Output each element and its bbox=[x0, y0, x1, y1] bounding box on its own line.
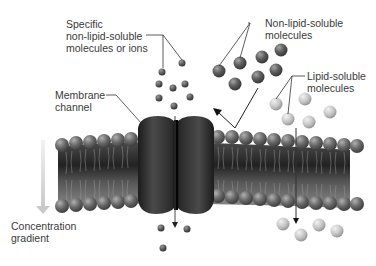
label-line: molecules bbox=[265, 29, 343, 41]
label-line: Lipid-soluble bbox=[307, 70, 366, 82]
concentration-gradient-arrow bbox=[36, 140, 50, 214]
label-concentration-gradient: Concentration gradient bbox=[11, 220, 76, 244]
label-line: Specific bbox=[66, 18, 148, 30]
label-line: Non-lipid-soluble bbox=[265, 17, 343, 29]
blocked-arrow bbox=[213, 88, 258, 128]
label-line: molecules bbox=[307, 82, 366, 94]
membrane-transport-diagram: Specific non-lipid-soluble molecules or … bbox=[0, 0, 376, 266]
label-line: channel bbox=[55, 101, 105, 113]
label-line: Concentration bbox=[11, 220, 76, 232]
label-line: molecules or ions bbox=[66, 42, 148, 54]
label-line: non-lipid-soluble bbox=[66, 30, 148, 42]
non-lipid-soluble-molecules bbox=[213, 44, 288, 91]
membrane-channel-protein bbox=[138, 116, 214, 214]
label-specific-ions: Specific non-lipid-soluble molecules or … bbox=[66, 18, 148, 54]
label-membrane-channel: Membrane channel bbox=[55, 89, 105, 113]
label-line: Membrane bbox=[55, 89, 105, 101]
label-non-lipid-soluble: Non-lipid-soluble molecules bbox=[265, 17, 343, 41]
label-lipid-soluble: Lipid-soluble molecules bbox=[307, 70, 366, 94]
label-line: gradient bbox=[11, 232, 76, 244]
